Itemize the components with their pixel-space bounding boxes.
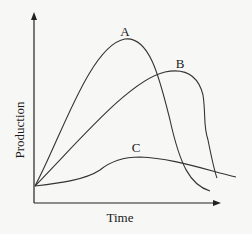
y-axis-arrow-icon [31, 12, 37, 20]
label-b: B [176, 56, 185, 71]
y-axis-label: Production [12, 101, 27, 159]
x-axis-label: Time [107, 210, 134, 225]
label-c: C [132, 140, 141, 155]
curve-c [35, 157, 236, 186]
label-a: A [120, 24, 130, 39]
production-chart: A B C Time Production [0, 0, 252, 234]
axes [34, 17, 218, 203]
x-axis-arrow-icon [213, 200, 221, 206]
